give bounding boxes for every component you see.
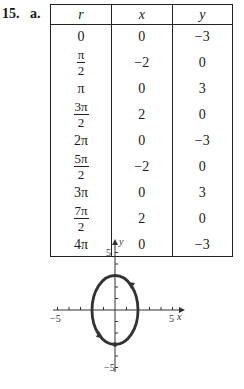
denominator: 2 [78, 63, 85, 77]
numerator: π [77, 48, 86, 63]
table-row: π03 [51, 77, 233, 100]
y-min-label: −5 [104, 362, 115, 373]
start-point [113, 342, 118, 347]
cell-r: π [51, 77, 112, 100]
table-row: 3π220 [51, 100, 233, 129]
numerator: 3π [74, 100, 89, 115]
cell-x: 0 [112, 25, 172, 49]
table-row: 2π0−3 [51, 129, 233, 152]
cell-x: −2 [112, 48, 172, 77]
x-min-label: −5 [50, 313, 61, 324]
fraction: 5π2 [74, 152, 89, 181]
denominator: 2 [78, 115, 85, 129]
fraction: 3π2 [74, 100, 89, 129]
cell-y: −3 [172, 129, 232, 152]
numerator: 5π [74, 152, 89, 167]
table-row: 7π220 [51, 204, 233, 233]
table-row: 5π2−20 [51, 152, 233, 181]
problem-part: a. [30, 6, 41, 21]
cell-x: 0 [112, 181, 172, 204]
cell-r: 3π2 [51, 100, 112, 129]
values-table: r x y 00−3π2−20π033π2202π0−35π2−203π037π… [50, 4, 233, 257]
fraction: π2 [77, 48, 86, 77]
cell-x: −2 [112, 152, 172, 181]
cell-x: 2 [112, 204, 172, 233]
table-row: π2−20 [51, 48, 233, 77]
cell-y: 0 [172, 204, 232, 233]
cell-r: 3π [51, 181, 112, 204]
cell-x: 2 [112, 100, 172, 129]
cell-r: 2π [51, 129, 112, 152]
cell-y: 0 [172, 48, 232, 77]
parametric-graph: −5 5 x 5 −5 y [0, 235, 244, 389]
cell-r: 0 [51, 25, 112, 49]
cell-r: π2 [51, 48, 112, 77]
cell-y: 3 [172, 181, 232, 204]
denominator: 2 [78, 219, 85, 233]
header-x: x [112, 5, 172, 25]
x-max-label: 5 [169, 313, 174, 324]
fraction: 7π2 [74, 204, 89, 233]
denominator: 2 [78, 167, 85, 181]
table-row: 3π03 [51, 181, 233, 204]
table-row: 00−3 [51, 25, 233, 49]
problem-number: 15. [2, 6, 20, 21]
header-y: y [172, 5, 232, 25]
cell-x: 0 [112, 77, 172, 100]
x-axis-label: x [176, 311, 182, 322]
y-axis-label: y [118, 236, 124, 247]
cell-y: 0 [172, 100, 232, 129]
table-header-row: r x y [51, 5, 233, 25]
cell-x: 0 [112, 129, 172, 152]
cell-r: 5π2 [51, 152, 112, 181]
cell-y: 0 [172, 152, 232, 181]
cell-y: −3 [172, 25, 232, 49]
y-max-label: 5 [106, 247, 111, 258]
cell-r: 7π2 [51, 204, 112, 233]
cell-y: 3 [172, 77, 232, 100]
header-r: r [51, 5, 112, 25]
problem-label: 15. a. [2, 6, 41, 22]
numerator: 7π [74, 204, 89, 219]
